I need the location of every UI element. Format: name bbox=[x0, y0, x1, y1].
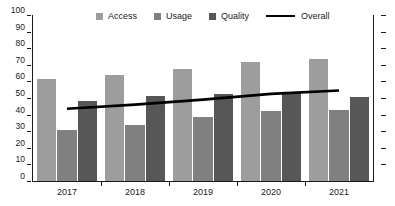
y-axis-tick-label: 50 bbox=[16, 93, 25, 94]
y-axis: 0102030405060708090100 bbox=[0, 0, 33, 206]
right-axis-tick-mark bbox=[381, 81, 386, 82]
right-axis-tick-mark bbox=[381, 15, 386, 16]
x-axis-line bbox=[32, 181, 374, 182]
x-axis-label-2021: 2021 bbox=[309, 187, 369, 197]
legend-label: Usage bbox=[166, 11, 192, 21]
x-axis-tick-mark bbox=[101, 182, 102, 186]
bar-group bbox=[33, 15, 101, 181]
bar-access-2018 bbox=[105, 75, 125, 181]
x-axis-tick-mark bbox=[305, 182, 306, 186]
plot-area bbox=[33, 15, 373, 181]
x-axis-label-2017: 2017 bbox=[37, 187, 97, 197]
y-axis-tick: 90 bbox=[0, 32, 33, 33]
bar-group bbox=[169, 15, 237, 181]
bar-usage-2017 bbox=[57, 130, 77, 181]
y-axis-tick: 0 bbox=[0, 181, 33, 182]
y-axis-tick-mark bbox=[27, 32, 31, 33]
legend-item-access[interactable]: Access bbox=[96, 11, 137, 21]
y-axis-tick: 80 bbox=[0, 48, 33, 49]
y-axis-tick-mark bbox=[27, 115, 31, 116]
bar-quality-2017 bbox=[78, 101, 98, 182]
y-axis-tick: 50 bbox=[0, 98, 33, 99]
legend-label: Access bbox=[108, 11, 137, 21]
chart-legend: AccessUsageQualityOverall bbox=[96, 11, 347, 21]
bar-quality-2021 bbox=[350, 97, 370, 181]
right-axis-tick-mark bbox=[381, 148, 386, 149]
y-axis-tick-mark bbox=[27, 131, 31, 132]
y-axis-tick-label: 20 bbox=[16, 143, 25, 144]
y-axis-tick-label: 80 bbox=[16, 43, 25, 44]
y-axis-tick: 70 bbox=[0, 65, 33, 66]
bar-usage-2019 bbox=[193, 117, 213, 181]
bar-quality-2020 bbox=[282, 92, 302, 181]
bar-usage-2018 bbox=[125, 125, 145, 181]
legend-label: Overall bbox=[301, 11, 330, 21]
right-axis-tick-mark bbox=[381, 48, 386, 49]
bar-group bbox=[305, 15, 373, 181]
y-axis-tick: 60 bbox=[0, 81, 33, 82]
y-axis-tick-mark bbox=[27, 81, 31, 82]
legend-label: Quality bbox=[221, 11, 249, 21]
y-axis-tick-label: 70 bbox=[16, 60, 25, 61]
y-axis-tick-label: 0 bbox=[20, 176, 25, 177]
y-axis-tick-label: 100 bbox=[11, 10, 25, 11]
right-axis-tick-mark bbox=[381, 131, 386, 132]
x-axis-tick-mark bbox=[237, 182, 238, 186]
legend-item-usage[interactable]: Usage bbox=[154, 11, 192, 21]
y-axis-tick: 30 bbox=[0, 131, 33, 132]
y-axis-tick-mark bbox=[27, 98, 31, 99]
y-axis-tick-mark bbox=[27, 15, 31, 16]
chart-container: 0102030405060708090100 20172018201920202… bbox=[0, 0, 395, 206]
right-axis-line bbox=[373, 15, 374, 182]
right-axis-tick-mark bbox=[381, 32, 386, 33]
y-axis-tick-label: 40 bbox=[16, 110, 25, 111]
legend-swatch-icon bbox=[96, 13, 103, 20]
y-axis-tick-mark bbox=[27, 48, 31, 49]
y-axis-tick-mark bbox=[27, 148, 31, 149]
legend-swatch-icon bbox=[154, 13, 161, 20]
legend-item-quality[interactable]: Quality bbox=[209, 11, 249, 21]
bar-access-2019 bbox=[173, 69, 193, 181]
legend-item-overall[interactable]: Overall bbox=[266, 11, 330, 21]
bar-quality-2019 bbox=[214, 94, 234, 181]
bar-access-2017 bbox=[37, 79, 57, 181]
right-axis-tick-mark bbox=[381, 164, 386, 165]
right-axis-tick-mark bbox=[381, 65, 386, 66]
bar-group bbox=[101, 15, 169, 181]
y-axis-tick-label: 10 bbox=[16, 159, 25, 160]
y-axis-tick-mark bbox=[27, 164, 31, 165]
y-axis-tick-label: 90 bbox=[16, 27, 25, 28]
right-axis-tick-mark bbox=[381, 98, 386, 99]
y-axis-tick-label: 60 bbox=[16, 76, 25, 77]
bar-group bbox=[237, 15, 305, 181]
bar-access-2020 bbox=[241, 62, 261, 181]
y-axis-tick: 40 bbox=[0, 115, 33, 116]
y-axis-tick: 20 bbox=[0, 148, 33, 149]
y-axis-tick: 100 bbox=[0, 15, 33, 16]
y-axis-tick-mark bbox=[27, 181, 31, 182]
y-axis-tick-mark bbox=[27, 65, 31, 66]
x-axis-label-2020: 2020 bbox=[241, 187, 301, 197]
x-axis-label-2019: 2019 bbox=[173, 187, 233, 197]
y-axis-tick: 10 bbox=[0, 164, 33, 165]
y-axis-tick-label: 30 bbox=[16, 126, 25, 127]
legend-line-marker bbox=[266, 15, 295, 18]
bar-access-2021 bbox=[309, 59, 329, 181]
right-axis bbox=[373, 0, 395, 206]
x-axis-tick-mark bbox=[169, 182, 170, 186]
bar-quality-2018 bbox=[146, 96, 166, 181]
legend-swatch-icon bbox=[209, 13, 216, 20]
bar-usage-2020 bbox=[261, 111, 281, 181]
right-axis-tick-mark bbox=[381, 115, 386, 116]
x-axis-label-2018: 2018 bbox=[105, 187, 165, 197]
bar-usage-2021 bbox=[329, 110, 349, 181]
